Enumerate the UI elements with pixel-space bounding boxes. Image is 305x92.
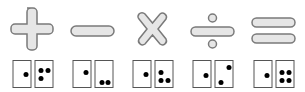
domino-left-half [192,60,211,88]
pip [83,70,88,75]
divide-cell [182,0,243,92]
pip [203,73,208,78]
pip [45,68,50,73]
pip [279,78,284,83]
domino-left-half [253,60,272,88]
domino-right-half [275,60,294,88]
domino [72,60,113,88]
equals-icon [243,4,304,56]
equals-cell [243,0,304,92]
pip [158,70,163,75]
pip [38,68,43,73]
pip [286,70,291,75]
pip [23,72,28,77]
times-cell [122,0,183,92]
pip [165,78,170,83]
domino-left-half [72,60,91,88]
pip [226,65,231,70]
plus-icon [2,4,63,56]
domino-right-half [34,60,53,88]
pip [264,73,269,78]
domino-left-half [132,60,151,88]
times-icon [122,4,183,56]
domino [132,60,173,88]
domino-right-half [154,60,173,88]
domino-left-half [12,60,31,88]
domino [192,60,233,88]
pip [279,70,284,75]
pip [218,80,223,85]
domino-right-half [214,60,233,88]
pip [38,76,43,81]
plus-cell [2,0,63,92]
minus-icon [62,4,123,56]
pip [105,80,110,85]
domino [12,60,53,88]
divide-icon [182,4,243,56]
pip [158,78,163,83]
domino-right-half [94,60,113,88]
pip [286,78,291,83]
pip [99,80,104,85]
pip [143,72,148,77]
minus-cell [62,0,123,92]
domino [253,60,294,88]
